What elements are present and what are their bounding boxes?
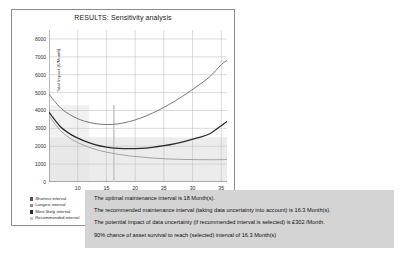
legend-swatch-icon [30,210,33,213]
legend-item: Shortest interval [30,196,79,202]
legend-item: Longest interval [30,203,79,209]
legend-swatch-icon [30,197,33,200]
legend-item-label: Longest interval [35,203,65,207]
y-tick-label: 7000 [35,54,46,60]
result-line: The potential impact of data uncertainty… [94,220,385,226]
plot-canvas [49,30,227,182]
legend-item: Most likely interval [30,209,79,215]
y-tick-label: 5000 [35,90,46,96]
y-axis-title: Total Impact (£/Month) [56,31,61,111]
result-line: The recommended maintenance interval (ta… [94,208,385,214]
y-tick-label: 2000 [35,143,46,149]
legend-swatch-icon [30,217,33,220]
legend-item-label: Most likely interval [35,210,70,214]
results-panel: The optimal maintenance interval is 18 M… [85,190,394,248]
y-tick-label: 3000 [35,125,46,131]
y-tick-label: 1000 [35,161,46,167]
y-tick-label: 4000 [35,107,46,113]
result-line: The optimal maintenance interval is 18 M… [94,196,385,202]
legend-item-label: Recommended interval [35,216,79,220]
chart-title: RESULTS: Sensitivity analysis [12,14,234,21]
legend-item-label: Shortest interval [35,197,66,201]
legend-item: Recommended interval [30,216,79,222]
plot-shaded-region-left [49,105,89,182]
y-tick-label: 6000 [35,72,46,78]
plot-area: Total Impact (£/Month) 01000200030004000… [49,30,227,182]
x-tick-label: 10 [75,185,81,191]
legend-swatch-icon [30,204,33,207]
result-line: 90% chance of asset survival to reach (s… [94,233,385,239]
y-tick-label: 0 [43,179,46,185]
chart-legend: Shortest intervalLongest intervalMost li… [30,196,79,222]
y-tick-label: 8000 [35,36,46,42]
